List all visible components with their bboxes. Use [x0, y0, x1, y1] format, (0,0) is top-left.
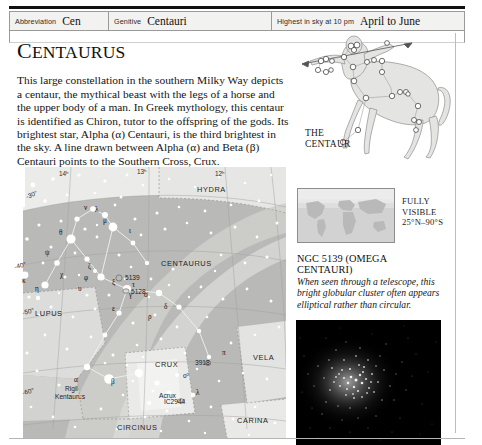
page-title: CENTAURUS [17, 40, 125, 62]
ra-tick-14h: 14ʰ [59, 170, 69, 177]
world-visibility-map [297, 188, 395, 243]
chart-label-vela: VELA [253, 353, 274, 362]
fact-value-abbreviation: Cen [62, 15, 81, 27]
fact-cell-highest-in-sky: Highest in sky at 10 pm April to June [272, 12, 464, 30]
centaur-caption-line1: THE [305, 128, 351, 139]
page-title-initial: C [17, 38, 32, 63]
chart-star-name-rigil-1: Rigil [65, 385, 78, 393]
chart-label-hydra: HYDRA [197, 185, 226, 194]
fact-value-highest-in-sky: April to June [360, 15, 420, 27]
chart-greek-lambda: λ [95, 206, 99, 214]
globular-cluster-photo [296, 320, 441, 445]
ngc-caption-title: NGC 5139 (OMEGA CENTAURI) [297, 253, 447, 275]
chart-label-centaurus: CENTAURUS [161, 259, 212, 268]
chart-greek-sigma: σ [144, 291, 148, 299]
chart-dso-ic2944: IC2944 [164, 398, 186, 405]
ngc-caption-body: When seen through a telescope, this brig… [297, 276, 449, 310]
chart-greek-sigma2: σ² [183, 372, 189, 380]
chart-greek-kappa: κ [22, 277, 26, 285]
visibility-line-2: VISIBLE [402, 207, 443, 218]
fact-label-highest-in-sky: Highest in sky at 10 pm [277, 17, 354, 26]
chart-greek-lambda-2: λ [196, 389, 200, 397]
chart-dso-3918: 3918 [195, 359, 210, 366]
chart-label-lupus: LUPUS [35, 309, 63, 318]
chart-greek-psi: ψ [45, 249, 50, 257]
chart-greek-upsilon: υ [78, 285, 82, 293]
centaur-caption-line2: CENTAUR [305, 139, 351, 150]
bottom-rule [9, 438, 465, 439]
chart-label-circinus: CIRCINUS [117, 423, 158, 432]
ra-tick-12h: 12ʰ [215, 170, 225, 177]
chart-greek-epsilon: ε [112, 305, 115, 313]
chart-greek-beta: β [111, 378, 115, 386]
chart-label-carina: CARINA [237, 416, 269, 425]
fact-cell-abbreviation: Abbreviation Cen [10, 12, 109, 30]
chart-greek-phi: φ [84, 274, 88, 282]
visibility-range: FULLY VISIBLE 25°N–90°S [402, 196, 443, 228]
chart-greek-mu: μ [103, 217, 107, 225]
star-chart: 14ʰ 13ʰ 12ʰ -30° -40° -50° -60° HYDRA CE… [9, 167, 286, 438]
chart-greek-alpha: α [74, 376, 78, 384]
chart-greek-tau: τ [132, 281, 135, 289]
visibility-line-1: FULLY [402, 196, 443, 207]
chart-greek-iota: ι [129, 227, 131, 235]
ngc-title-line2: CENTAURI) [297, 264, 353, 275]
visibility-line-3: 25°N–90°S [402, 217, 443, 228]
ngc-title-line1: NGC 5139 (OMEGA [297, 253, 387, 264]
ra-tick-13h: 13ʰ [137, 168, 147, 175]
chart-greek-eta: η [35, 285, 39, 293]
fact-cell-genitive: Genitive Centauri [109, 12, 272, 30]
top-rule [9, 6, 465, 9]
chart-greek-pi: π [222, 349, 226, 357]
constellation-fact-table: Abbreviation Cen Genitive Centauri Highe… [9, 11, 465, 31]
chart-star-name-rigil-2: Kentaurus [55, 393, 86, 400]
column-divider [455, 33, 456, 433]
fact-label-abbreviation: Abbreviation [15, 17, 56, 26]
chart-label-crux: CRUX [155, 360, 178, 369]
constellation-reference-page: Abbreviation Cen Genitive Centauri Highe… [0, 0, 482, 445]
chart-dso-5139: 5139 [125, 274, 140, 281]
fact-value-genitive: Centauri [147, 15, 187, 27]
chart-greek-zeta: ζ [88, 262, 91, 271]
chart-greek-theta: θ [59, 229, 63, 237]
chart-greek-rho: ρ [148, 313, 152, 321]
page-title-rest: ENTAURUS [32, 42, 126, 62]
fact-label-genitive: Genitive [114, 17, 141, 26]
centaur-figure-caption: THE CENTAUR [305, 128, 351, 149]
intro-paragraph: This large constellation in the southern… [17, 74, 289, 168]
